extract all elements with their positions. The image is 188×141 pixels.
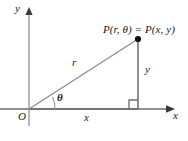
radius-segment-r: [29, 39, 138, 109]
vertical-leg-label: y: [145, 64, 150, 75]
y-axis: [25, 7, 32, 126]
point-p-marker-icon: [135, 36, 141, 42]
diagram-canvas: [0, 0, 188, 141]
theta-arc-icon: [53, 97, 56, 109]
theta-angle-label: θ: [57, 92, 63, 103]
polar-coordinates-diagram: y x O r θ y x P(r, θ) = P(x, y): [0, 0, 188, 141]
radius-label: r: [72, 57, 76, 68]
y-axis-label: y: [15, 3, 20, 14]
x-axis-label: x: [173, 110, 178, 121]
origin-label: O: [18, 111, 26, 122]
horizontal-leg-label: x: [84, 112, 89, 123]
y-axis-arrowhead-icon: [25, 7, 32, 15]
point-p-label: P(r, θ) = P(x, y): [103, 24, 175, 35]
right-angle-marker-icon: [129, 100, 138, 109]
